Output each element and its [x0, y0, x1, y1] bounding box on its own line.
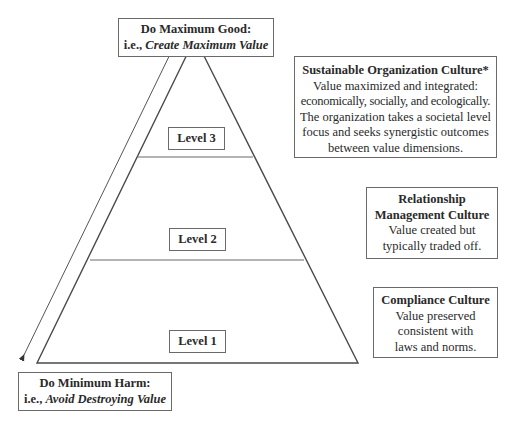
relationship-line-1: Value created but	[367, 223, 497, 239]
sustainable-culture-box: Sustainable Organization Culture* Value …	[294, 56, 497, 158]
compliance-line-2: consistent with	[374, 324, 497, 340]
compliance-culture-box: Compliance Culture Value preserved consi…	[373, 287, 498, 358]
relationship-line-2: typically traded off.	[367, 239, 497, 255]
sustainable-line-4: focus and seeks synergistic outcomes	[295, 125, 496, 141]
relationship-culture-title-1: Relationship	[367, 192, 497, 208]
compliance-line-1: Value preserved	[374, 309, 497, 325]
bottom-box-title: Do Minimum Harm:	[19, 376, 171, 392]
compliance-line-3: laws and norms.	[374, 340, 497, 356]
top-box-title: Do Maximum Good:	[119, 22, 273, 38]
compliance-culture-title: Compliance Culture	[374, 293, 497, 309]
relationship-culture-title-2: Management Culture	[367, 208, 497, 224]
sustainable-line-5: between value dimensions.	[295, 141, 496, 157]
level-1-box: Level 1	[169, 330, 226, 353]
double-arrow	[24, 42, 176, 355]
sustainable-line-3: The organization takes a societal level	[295, 110, 496, 126]
level-3-box: Level 3	[168, 127, 225, 150]
bottom-box-subtitle: i.e., Avoid Destroying Value	[19, 392, 171, 408]
top-box-maximum-good: Do Maximum Good: i.e., Create Maximum Va…	[118, 18, 274, 57]
top-box-subtitle: i.e., Create Maximum Value	[119, 38, 273, 54]
relationship-culture-box: Relationship Management Culture Value cr…	[366, 187, 498, 259]
sustainable-line-1: Value maximized and integrated:	[295, 79, 496, 95]
bottom-box-minimum-harm: Do Minimum Harm: i.e., Avoid Destroying …	[18, 372, 172, 411]
sustainable-line-2: economically, socially, and ecologically…	[295, 94, 496, 110]
level-2-box: Level 2	[169, 228, 226, 251]
sustainable-culture-title: Sustainable Organization Culture*	[295, 63, 496, 79]
